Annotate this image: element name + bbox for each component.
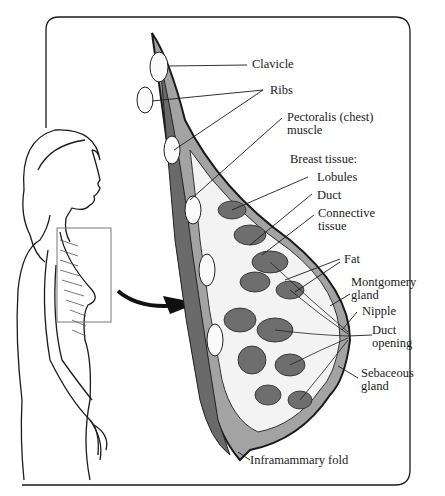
woman-figure xyxy=(17,130,107,480)
label-inframammary-fold: Inframammary fold xyxy=(250,454,348,467)
label-pectoralis-line2: muscle xyxy=(287,124,322,137)
label-montgomery-line2: gland xyxy=(351,289,379,302)
label-duct-opening-line2: opening xyxy=(372,337,412,350)
label-duct: Duct xyxy=(317,189,341,202)
label-fat: Fat xyxy=(344,253,360,266)
label-sebaceous-line2: gland xyxy=(361,380,389,393)
breast-cross-section xyxy=(137,33,350,460)
label-clavicle: Clavicle xyxy=(252,58,294,71)
label-connective-line2: tissue xyxy=(318,220,346,233)
label-breast-tissue-heading: Breast tissue: xyxy=(290,153,357,166)
label-nipple: Nipple xyxy=(362,305,396,318)
diagram-canvas xyxy=(0,0,445,496)
label-lobules: Lobules xyxy=(317,171,357,184)
label-ribs: Ribs xyxy=(270,84,293,97)
